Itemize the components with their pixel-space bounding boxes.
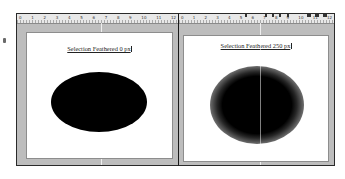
canvas-caption: Selection Feathered 0 px [27, 45, 172, 52]
horizontal-ruler[interactable]: 0 1 2 3 4 5 6 7 8 9 10 11 12 [17, 14, 178, 24]
ruler-ticks [17, 20, 178, 23]
ruler-ticks [179, 20, 334, 23]
document-panel-feather-250: 0 1 2 3 4 5 6 7 8 9 10 11 12 Selection F… [178, 13, 335, 166]
ellipse-selection-feathered [210, 66, 304, 144]
caption-text: Selection Feathered 0 px [67, 45, 130, 52]
image-canvas[interactable]: Selection Feathered 250 px [183, 35, 329, 162]
horizontal-ruler[interactable]: 0 1 2 3 4 5 6 7 8 9 10 11 12 [179, 14, 334, 24]
canvas-caption: Selection Feathered 250 px [184, 42, 328, 49]
image-canvas[interactable]: Selection Feathered 0 px [26, 32, 173, 159]
caption-text: Selection Feathered 250 px [221, 42, 291, 49]
vertical-guide-overlay [260, 36, 261, 161]
text-cursor [131, 46, 132, 52]
text-cursor [291, 43, 292, 49]
edge-marker [3, 38, 6, 43]
document-panel-feather-0: 0 1 2 3 4 5 6 7 8 9 10 11 12 Selection F… [16, 13, 179, 166]
ellipse-selection-hard [51, 72, 147, 132]
